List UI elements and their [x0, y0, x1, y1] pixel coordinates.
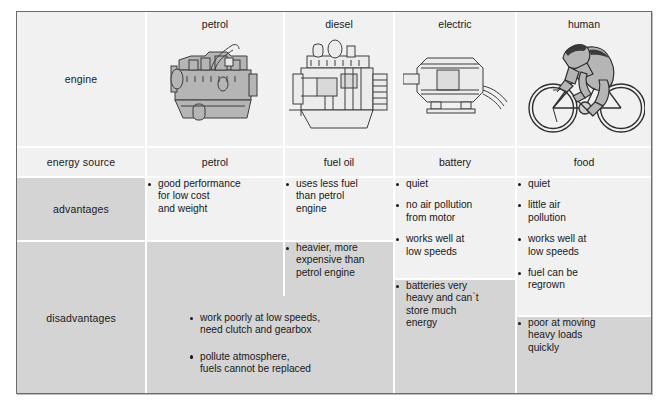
list-item: works well at low speeds — [395, 233, 515, 258]
table-frame: engine petrol — [16, 11, 652, 394]
bullet-list: good performance for low cost and weight — [147, 178, 283, 215]
cell-engine-electric: electric — [395, 12, 515, 146]
cell-advantages-petrol: good performance for low cost and weight — [147, 178, 283, 240]
cell-disadvantages-petrol-diesel-shared: work poorly at low speeds, need clutch a… — [147, 296, 393, 393]
cell-disadvantages-electric: batteries very heavy and can`t store muc… — [395, 280, 515, 393]
bullet-list: quiet little air pollution works well at… — [517, 178, 651, 292]
bullet-list: uses less fuel than petrol engine — [285, 178, 393, 215]
column-divider-2 — [393, 12, 395, 393]
list-item: quiet — [395, 178, 515, 190]
row-header-energy-source: energy source — [17, 148, 145, 176]
list-item: no air pollution from motor — [395, 199, 515, 224]
cell-engine-diesel: diesel — [285, 12, 393, 146]
list-item: uses less fuel than petrol engine — [285, 178, 393, 215]
list-item: pollute atmosphere, fuels cannot be repl… — [189, 351, 385, 376]
cell-disadvantages-human: poor at moving heavy loads quickly — [517, 317, 651, 393]
list-item: heavier, more expensive than petrol engi… — [285, 242, 393, 279]
list-item: good performance for low cost and weight — [147, 178, 283, 215]
list-item: little air pollution — [517, 199, 651, 224]
list-item: work poorly at low speeds, need clutch a… — [189, 312, 385, 337]
bullet-list: quiet no air pollution from motor works … — [395, 178, 515, 258]
row-header-disadvantages: disadvantages — [17, 242, 145, 393]
cell-advantages-diesel: uses less fuel than petrol engine — [285, 178, 393, 240]
column-header-human: human — [517, 18, 651, 30]
list-item: quiet — [517, 178, 651, 190]
column-divider-1 — [283, 12, 285, 242]
row-header-engine: engine — [17, 12, 145, 146]
column-divider-petrol-diesel-disadv — [283, 242, 285, 296]
column-header-petrol: petrol — [147, 18, 283, 30]
list-item: batteries very heavy and can`t store muc… — [395, 280, 515, 330]
petrol-engine-illustration — [165, 36, 265, 131]
column-header-electric: electric — [395, 18, 515, 30]
row-header-advantages: advantages — [17, 178, 145, 240]
cell-energy-diesel: fuel oil — [285, 148, 393, 176]
diesel-engine-illustration — [289, 34, 393, 134]
cell-advantages-electric: quiet no air pollution from motor works … — [395, 178, 515, 278]
electric-motor-illustration — [403, 42, 509, 122]
bullet-list: poor at moving heavy loads quickly — [517, 317, 651, 354]
bullet-list: work poorly at low speeds, need clutch a… — [147, 296, 393, 376]
list-item: works well at low speeds — [517, 233, 651, 258]
comparison-table-page: engine petrol — [0, 0, 666, 410]
cell-energy-electric: battery — [395, 148, 515, 176]
cyclist-illustration — [527, 30, 645, 142]
bullet-list: heavier, more expensive than petrol engi… — [285, 242, 393, 279]
cell-energy-human: food — [517, 148, 651, 176]
cell-disadvantages-petrol-empty — [147, 242, 283, 296]
cell-disadvantages-diesel: heavier, more expensive than petrol engi… — [285, 242, 393, 296]
bullet-list: batteries very heavy and can`t store muc… — [395, 280, 515, 330]
cell-engine-petrol: petrol — [147, 12, 283, 146]
cell-energy-petrol: petrol — [147, 148, 283, 176]
column-divider-3 — [515, 12, 517, 393]
column-divider-0 — [145, 12, 147, 393]
column-header-diesel: diesel — [285, 18, 393, 30]
list-item: poor at moving heavy loads quickly — [517, 317, 651, 354]
cell-engine-human: human — [517, 12, 651, 146]
list-item: fuel can be regrown — [517, 267, 651, 292]
cell-advantages-human: quiet little air pollution works well at… — [517, 178, 651, 315]
